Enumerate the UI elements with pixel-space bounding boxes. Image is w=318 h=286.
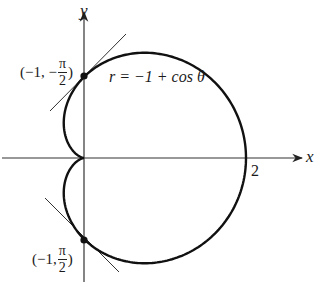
point-label-top: (−1, − π 2 ) (20, 57, 73, 88)
point-label-bottom: (−1, π 2 ) (32, 244, 73, 275)
y-axis-label: y (80, 2, 88, 19)
fraction-pi-over-2: π 2 (58, 244, 67, 275)
point-label-top-prefix: (−1, − (20, 65, 57, 80)
fraction-pi-over-2: π 2 (58, 57, 67, 88)
fraction-denominator: 2 (59, 260, 66, 275)
point-top (80, 72, 87, 79)
point-bottom (80, 236, 87, 243)
point-label-top-suffix: ) (68, 65, 73, 80)
fraction-denominator: 2 (59, 73, 66, 88)
polar-graph-figure: y x 2 r = −1 + cos θ (−1, − π 2 ) (−1, π… (0, 0, 318, 286)
point-label-bottom-prefix: (−1, (32, 252, 57, 267)
x-tick-label-2: 2 (251, 163, 259, 179)
equation-label: r = −1 + cos θ (109, 69, 205, 85)
fraction-numerator: π (58, 57, 67, 73)
equation-text: r = −1 + cos θ (109, 68, 205, 85)
point-label-bottom-suffix: ) (68, 252, 73, 267)
x-axis-label: x (306, 148, 314, 165)
fraction-numerator: π (58, 244, 67, 260)
